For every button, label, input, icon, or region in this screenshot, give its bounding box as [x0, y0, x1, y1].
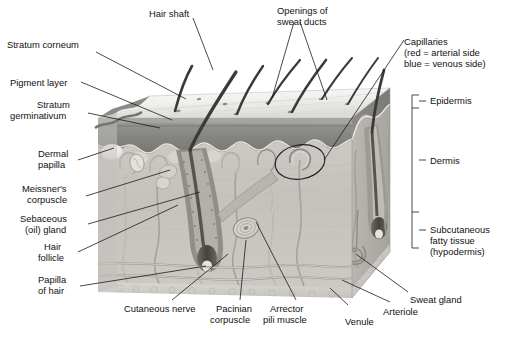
skin-anatomy-figure: Hair shaft Openings of sweat ducts Capil…: [0, 0, 505, 337]
label-openings-sweat-ducts-line1: Openings of: [277, 5, 328, 16]
label-epidermis: Epidermis: [430, 95, 472, 106]
layer-brackets: [412, 95, 426, 248]
label-hair-follicle-line1: Hair: [44, 241, 61, 252]
label-dermis: Dermis: [430, 155, 460, 166]
label-arrector-pili-muscle-line1: Arrector: [270, 303, 303, 314]
label-pacinian-corpuscle-line1: Pacinian: [216, 303, 252, 314]
label-venule: Venule: [345, 316, 374, 327]
label-sebaceous-gland-line2: (oil) gland: [25, 224, 66, 235]
label-meissners-corpuscle-line1: Meissner's: [22, 183, 67, 194]
label-papilla-of-hair-line2: of hair: [38, 285, 64, 296]
label-arrector-pili-muscle-line2: pili muscle: [263, 314, 307, 325]
label-meissners-corpuscle-line2: corpuscle: [27, 194, 67, 205]
skin-cross-section-left: [98, 110, 117, 292]
skin-cross-section-front: [98, 118, 352, 298]
label-stratum-germinativum-line2: germinativum: [10, 110, 66, 121]
label-pigment-layer: Pigment layer: [10, 77, 67, 88]
label-hair-follicle-line2: follicle: [38, 252, 64, 263]
label-sebaceous-gland-line1: Sebaceous: [20, 213, 67, 224]
label-sweat-gland: Sweat gland: [410, 294, 462, 305]
label-dermal-papilla-line1: Dermal: [38, 148, 68, 159]
label-stratum-germinativum-line1: Stratum: [37, 99, 70, 110]
label-capillaries-line1: Capillaries: [404, 36, 448, 47]
skin-cross-section-right: [347, 88, 390, 298]
label-capillaries-line3: blue = venous side): [404, 58, 486, 69]
skin-diagram-svg: Hair shaft Openings of sweat ducts Capil…: [0, 0, 505, 337]
label-openings-sweat-ducts-line2: sweat ducts: [277, 16, 327, 27]
label-stratum-corneum: Stratum corneum: [7, 39, 79, 50]
label-papilla-of-hair-line1: Papilla: [38, 274, 67, 285]
label-subcutaneous-line3: (hypodermis): [430, 246, 485, 257]
label-hair-shaft: Hair shaft: [149, 8, 190, 19]
label-dermal-papilla-line2: papilla: [38, 159, 66, 170]
skin-block-illustration: [95, 58, 390, 298]
label-subcutaneous-line2: fatty tissue: [430, 235, 475, 246]
label-cutaneous-nerve: Cutaneous nerve: [124, 303, 195, 314]
label-pacinian-corpuscle-line2: corpuscle: [210, 314, 250, 325]
label-arteriole: Arteriole: [383, 306, 418, 317]
label-subcutaneous-line1: Subcutaneous: [430, 224, 490, 235]
label-capillaries-line2: (red = arterial side: [404, 47, 480, 58]
